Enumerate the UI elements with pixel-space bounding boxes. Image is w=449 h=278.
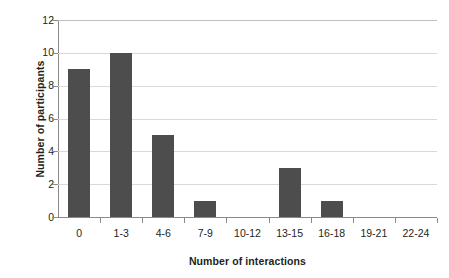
x-axis-tick-label: 19-21 (353, 227, 395, 240)
x-axis-tick-label: 0 (58, 227, 100, 240)
y-axis-tick-label: 10 (28, 47, 54, 58)
x-axis-tick-label: 22-24 (395, 227, 437, 240)
y-axis-tick-label: 4 (28, 146, 54, 157)
x-axis-tick-mark (353, 218, 354, 223)
x-axis-tick-mark (226, 218, 227, 223)
bar (321, 201, 343, 217)
y-axis-tick-label: 8 (28, 80, 54, 91)
y-axis-tick-mark (52, 53, 58, 54)
y-axis-tick-labels: 024681012 (28, 14, 54, 220)
y-axis-tick-mark (52, 217, 58, 218)
y-axis-tick-mark (52, 119, 58, 120)
bar (152, 135, 174, 217)
y-axis-tick-label: 6 (28, 113, 54, 124)
y-axis-tick-mark (52, 86, 58, 87)
bars-layer (58, 20, 437, 217)
y-axis-tick-mark (52, 184, 58, 185)
x-axis-tick-mark (100, 218, 101, 223)
x-axis-tick-mark (269, 218, 270, 223)
bar (68, 69, 90, 217)
y-axis-tick-mark (52, 151, 58, 152)
plot-area (58, 20, 437, 217)
x-axis-tick-label: 4-6 (142, 227, 184, 240)
x-axis-tick-label: 16-18 (311, 227, 353, 240)
bar (279, 168, 301, 217)
bar (194, 201, 216, 217)
bar (110, 53, 132, 217)
x-axis-tick-mark (311, 218, 312, 223)
x-axis-tick-label: 7-9 (184, 227, 226, 240)
y-axis-tick-label: 2 (28, 179, 54, 190)
x-axis-tick-mark (184, 218, 185, 223)
x-axis-tick-mark (437, 218, 438, 223)
x-axis-tick-mark (395, 218, 396, 223)
y-axis-tick-mark (52, 20, 58, 21)
x-axis-tick-label: 10-12 (226, 227, 268, 240)
bar-chart: Number of participants 024681012 01-34-6… (0, 0, 449, 278)
x-axis-tick-label: 1-3 (100, 227, 142, 240)
x-axis-line (52, 217, 437, 218)
x-axis-tick-labels: 01-34-67-910-1213-1516-1819-2122-24 (58, 227, 437, 243)
x-axis-tick-label: 13-15 (269, 227, 311, 240)
x-axis-tick-mark (142, 218, 143, 223)
y-axis-tick-label: 12 (28, 15, 54, 26)
y-axis-tick-label: 0 (28, 212, 54, 223)
x-axis-title: Number of interactions (58, 255, 437, 267)
